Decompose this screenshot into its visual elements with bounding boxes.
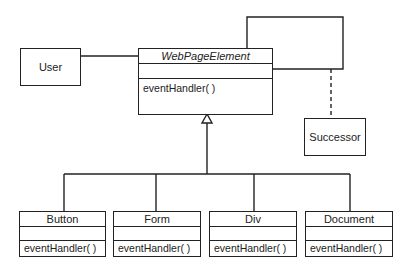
class-attributes — [114, 227, 200, 241]
class-operation: eventHandler( ) — [210, 241, 296, 254]
class-attributes — [20, 227, 105, 241]
class-name: Div — [210, 212, 296, 227]
subclass-div[interactable]: Div eventHandler( ) — [209, 211, 297, 257]
webpageelement-class[interactable]: WebPageElement eventHandler( ) — [138, 48, 273, 115]
subclass-button[interactable]: Button eventHandler( ) — [19, 211, 106, 257]
successor-box[interactable]: Successor — [304, 118, 366, 156]
class-operation: eventHandler( ) — [139, 79, 272, 94]
class-name: Form — [114, 212, 200, 227]
class-name: WebPageElement — [139, 49, 272, 64]
class-operation: eventHandler( ) — [20, 241, 105, 254]
inheritance-arrow-icon — [202, 114, 212, 123]
class-attributes — [306, 227, 392, 241]
class-attributes — [139, 64, 272, 79]
class-name: Document — [306, 212, 392, 227]
class-attributes — [210, 227, 296, 241]
class-operation: eventHandler( ) — [114, 241, 200, 254]
class-operation: eventHandler( ) — [306, 241, 392, 254]
user-label: User — [39, 61, 62, 73]
successor-label: Successor — [309, 131, 360, 143]
class-name: Button — [20, 212, 105, 227]
user-box[interactable]: User — [20, 48, 81, 86]
subclass-document[interactable]: Document eventHandler( ) — [305, 211, 393, 257]
subclass-form[interactable]: Form eventHandler( ) — [113, 211, 201, 257]
